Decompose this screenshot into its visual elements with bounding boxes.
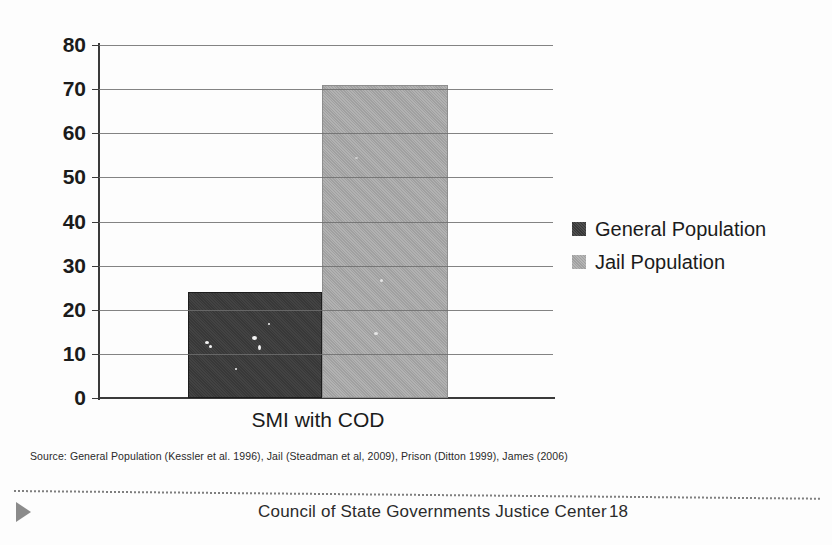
y-axis-tick-label: 0	[26, 387, 86, 408]
gridline	[98, 89, 553, 90]
legend-swatch-jail-population-icon	[572, 255, 586, 269]
gridline	[98, 266, 553, 267]
y-axis-tick	[92, 354, 99, 355]
y-axis-tick-label: 80	[26, 34, 86, 55]
gridline	[98, 222, 553, 223]
gridline	[98, 133, 553, 134]
footer-page-number: 18	[609, 502, 628, 522]
gridline	[98, 310, 553, 311]
slide-footer: Council of State Governments Justice Cen…	[0, 490, 832, 545]
y-axis-tick	[92, 222, 99, 223]
y-axis-tick-label: 20	[26, 299, 86, 320]
y-axis-tick	[92, 266, 99, 267]
bar-chart: 01020304050607080 SMI with COD General P…	[0, 0, 832, 470]
source-note: Source: General Population (Kessler et a…	[30, 450, 568, 462]
y-axis-tick	[92, 45, 99, 46]
y-axis-tick	[92, 89, 99, 90]
gridline	[98, 354, 553, 355]
bar-general-population	[188, 292, 322, 398]
y-axis-tick-label: 30	[26, 255, 86, 276]
footer-organization: Council of State Governments Justice Cen…	[258, 502, 607, 522]
y-axis-tick	[92, 177, 99, 178]
gridline	[98, 177, 553, 178]
legend-swatch-general-population-icon	[572, 222, 586, 236]
y-axis-tick	[92, 398, 99, 399]
y-axis-tick	[92, 310, 99, 311]
chart-legend: General Population Jail Population	[572, 216, 828, 282]
y-axis-tick-label: 60	[26, 122, 86, 143]
bar-jail-population	[322, 85, 448, 398]
plot-area	[98, 45, 553, 398]
legend-label-general-population: General Population	[595, 218, 766, 241]
y-axis-tick-label: 10	[26, 343, 86, 364]
legend-item-general-population: General Population	[572, 216, 828, 242]
y-axis-tick-label: 50	[26, 166, 86, 187]
y-axis-tick-label: 40	[26, 211, 86, 232]
legend-label-jail-population: Jail Population	[595, 251, 725, 274]
footer-divider	[14, 490, 820, 502]
x-axis-category-label: SMI with COD	[188, 408, 448, 432]
y-axis-tick-label: 70	[26, 78, 86, 99]
gridline	[98, 45, 553, 46]
legend-item-jail-population: Jail Population	[572, 249, 828, 275]
y-axis-tick	[92, 133, 99, 134]
play-triangle-icon	[16, 502, 31, 522]
